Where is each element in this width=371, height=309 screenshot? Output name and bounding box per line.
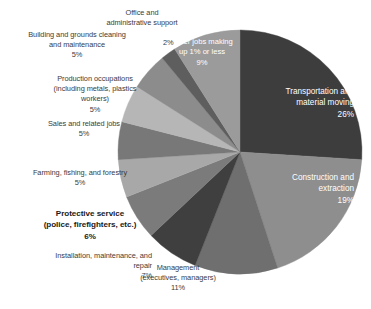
slice-label-transportation: Transportation and material moving 26% — [248, 86, 354, 120]
slice-label-protective-service: Protective service (police, firefighters… — [14, 208, 166, 242]
pie-chart-screenshot: Transportation and material moving 26% C… — [0, 0, 371, 309]
slice-label-construction: Construction and extraction 19% — [248, 172, 354, 206]
slice-label-building-grounds: Building and grounds cleaning and mainte… — [4, 30, 150, 61]
slice-label-sales: Sales and related jobs 5% — [28, 119, 140, 139]
slice-value-office-admin: 2% — [163, 38, 187, 48]
slice-label-management: Management (executives, managers) 11% — [124, 263, 232, 294]
slice-label-production: Production occupations (including metals… — [28, 74, 162, 115]
slice-label-office-admin: Office and administrative support — [88, 8, 196, 28]
slice-label-farming: Farming, fishing, and forestry 5% — [10, 168, 150, 188]
